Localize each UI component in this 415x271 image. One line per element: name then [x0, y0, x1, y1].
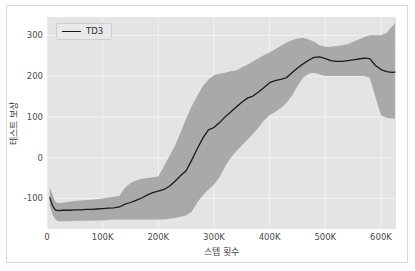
x-axis-tick-labels: 0100K200K300K400K500K600K [47, 232, 396, 246]
y-axis-tick-labels: -1000100200300 [0, 17, 43, 229]
x-tick-label: 100K [92, 232, 114, 242]
x-axis-title-text: 스텝 횟수 [204, 247, 239, 257]
chart-figure: 테스트 보상 -1000100200300 TD3 0100K200K300K4… [0, 0, 415, 271]
plot-area [47, 17, 396, 229]
chart-legend: TD3 [56, 23, 112, 40]
x-tick-label: 500K [314, 232, 336, 242]
x-axis-title: 스텝 횟수 [47, 245, 396, 258]
legend-line-swatch [62, 31, 81, 32]
chart-canvas [47, 17, 396, 229]
x-tick-label: 0 [44, 232, 49, 242]
x-tick-label: 200K [147, 232, 169, 242]
x-tick-label: 400K [259, 232, 281, 242]
y-tick-label: -100 [24, 193, 43, 203]
y-tick-label: 200 [27, 71, 43, 81]
x-tick-label: 300K [203, 232, 225, 242]
plot-wrapper: TD3 [47, 17, 396, 229]
y-tick-label: 0 [38, 153, 43, 163]
x-tick-label: 600K [370, 232, 392, 242]
confidence-band-td3 [50, 23, 395, 221]
y-tick-label: 100 [27, 112, 43, 122]
legend-item-label: TD3 [86, 27, 103, 36]
y-tick-label: 300 [27, 30, 43, 40]
